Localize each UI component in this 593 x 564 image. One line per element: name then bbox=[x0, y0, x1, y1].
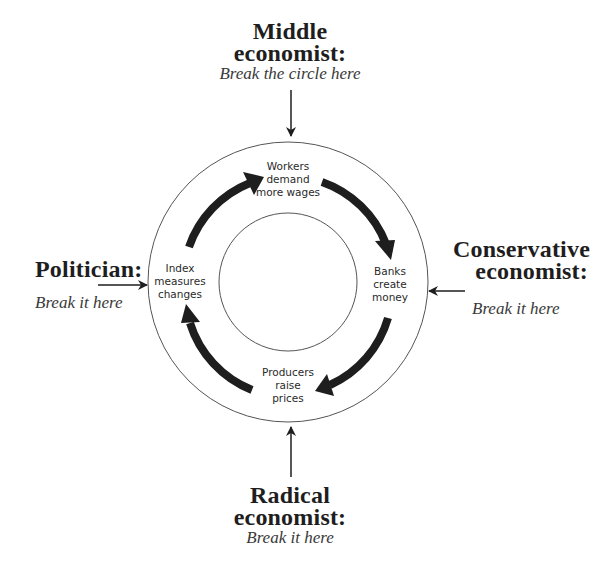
node-banks-line-1: Banks bbox=[360, 265, 420, 278]
radical-economist-subtitle: Break it here bbox=[190, 528, 390, 548]
node-producers-line-2: raise bbox=[253, 379, 323, 392]
break-label-middle-economist: Middle economist: Break the circle here bbox=[190, 20, 390, 84]
cycle-arrow-banks-to-producers bbox=[315, 318, 388, 396]
node-producers-line-1: Producers bbox=[253, 366, 323, 379]
node-producers: Producers raise prices bbox=[253, 366, 323, 405]
conservative-economist-title-1: Conservative bbox=[420, 238, 590, 260]
node-index: Index measures changes bbox=[148, 262, 212, 301]
node-index-line-2: measures bbox=[148, 275, 212, 288]
conservative-economist-subtitle: Break it here bbox=[472, 299, 559, 319]
middle-economist-title-1: Middle bbox=[190, 20, 390, 42]
middle-economist-subtitle: Break the circle here bbox=[190, 64, 390, 84]
politician-subtitle: Break it here bbox=[35, 293, 122, 313]
cycle-arrow-workers-to-banks bbox=[322, 182, 395, 260]
break-label-conservative-economist: Conservative economist: bbox=[420, 238, 590, 282]
node-banks-line-2: create bbox=[360, 278, 420, 291]
node-index-line-3: changes bbox=[148, 288, 212, 301]
middle-economist-title-2: economist: bbox=[190, 42, 390, 64]
radical-economist-title-2: economist: bbox=[190, 506, 390, 528]
cycle-arrow-producers-to-index bbox=[181, 304, 252, 390]
node-banks: Banks create money bbox=[360, 265, 420, 304]
node-workers: Workers demand more wages bbox=[248, 160, 328, 199]
node-workers-line-2: demand bbox=[248, 173, 328, 186]
conservative-economist-title-2: economist: bbox=[420, 260, 588, 282]
node-index-line-1: Index bbox=[148, 262, 212, 275]
break-label-radical-economist: Radical economist: Break it here bbox=[190, 484, 390, 548]
politician-title: Politician: bbox=[35, 258, 145, 280]
node-workers-line-1: Workers bbox=[248, 160, 328, 173]
radical-economist-title-1: Radical bbox=[190, 484, 390, 506]
node-banks-line-3: money bbox=[360, 291, 420, 304]
break-label-politician: Politician: bbox=[35, 258, 145, 280]
node-producers-line-3: prices bbox=[253, 392, 323, 405]
inflation-cycle-diagram: Workers demand more wages Banks create m… bbox=[0, 0, 593, 564]
node-workers-line-3: more wages bbox=[248, 186, 328, 199]
inner-ring bbox=[219, 213, 357, 351]
